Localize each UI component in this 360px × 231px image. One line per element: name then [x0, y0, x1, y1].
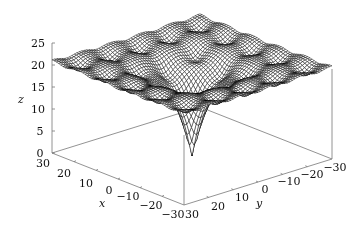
- y-axis-label: y: [256, 198, 262, 209]
- y-tick: 0: [262, 184, 269, 195]
- x-tick: 30: [36, 158, 50, 169]
- z-tick: 25: [31, 38, 45, 49]
- y-tick: 30: [185, 209, 199, 220]
- x-tick: −10: [116, 191, 139, 202]
- z-tick: 20: [31, 60, 45, 71]
- y-tick: −10: [277, 176, 300, 187]
- y-tick: −30: [323, 162, 346, 173]
- x-tick: 20: [57, 168, 71, 179]
- z-tick: 10: [31, 104, 45, 115]
- y-tick: 10: [235, 192, 249, 203]
- x-tick: −30: [161, 209, 184, 220]
- x-tick: 0: [106, 185, 113, 196]
- z-tick: 5: [37, 126, 44, 137]
- surface-plot: [0, 0, 360, 231]
- y-tick: −20: [300, 169, 323, 180]
- z-axis-label: z: [18, 94, 24, 105]
- x-tick: −20: [139, 200, 162, 211]
- x-axis-label: x: [99, 198, 105, 209]
- y-tick: 20: [211, 201, 225, 212]
- z-tick: 15: [31, 82, 45, 93]
- x-tick: 10: [79, 178, 93, 189]
